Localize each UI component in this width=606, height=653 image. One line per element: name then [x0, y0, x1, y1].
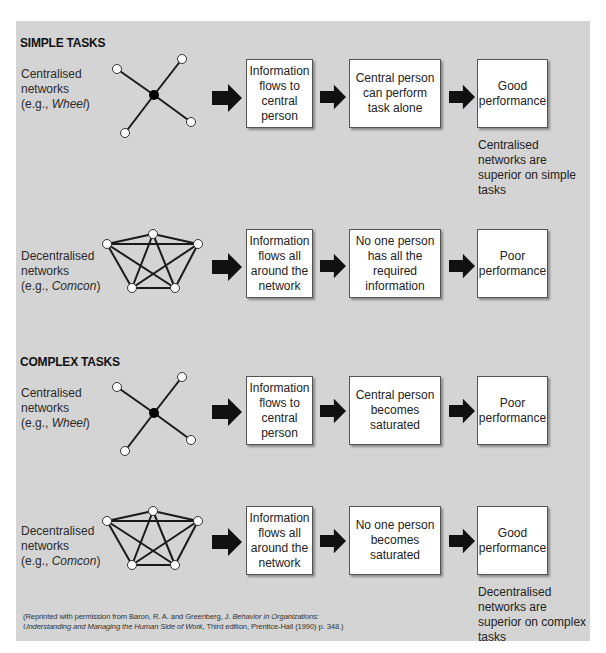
network-example: Comcon: [52, 554, 97, 568]
outcome-box: Good performance: [477, 59, 548, 128]
arrow-right-icon: [449, 253, 475, 279]
citation: (Reprinted with permission from Baron, R…: [23, 612, 343, 632]
node: [149, 230, 158, 239]
arrow-right-icon: [212, 528, 242, 556]
outer-node: [121, 129, 130, 138]
network-label: Decentralised networks (e.g., Comcon): [21, 249, 100, 294]
outer-node: [178, 373, 187, 382]
outcome-box: Poor performance: [477, 376, 548, 445]
arrow-right-icon: [212, 84, 242, 112]
conclusion-note: Centralised networks are superior on sim…: [478, 138, 590, 198]
outer-node: [113, 383, 122, 392]
outer-node: [187, 436, 196, 445]
step-box: No one person becomes saturated: [349, 506, 441, 575]
node: [171, 284, 180, 293]
network-example: Comcon: [52, 279, 97, 293]
network-label: Centralised networks (e.g., Wheel): [21, 386, 90, 431]
conclusion-note: Decentralised networks are superior on c…: [478, 585, 590, 645]
section-title-simple-tasks: SIMPLE TASKS: [20, 36, 105, 50]
arrow-right-icon: [320, 84, 346, 110]
arrow-right-icon: [212, 398, 242, 426]
node: [128, 284, 137, 293]
section-title-complex-tasks: COMPLEX TASKS: [20, 355, 120, 369]
step-box: Information flows to central person: [246, 376, 313, 445]
arrow-right-icon: [449, 528, 475, 554]
node: [171, 561, 180, 570]
step-box: No one person has all the required infor…: [349, 229, 441, 298]
arrow-right-icon: [320, 253, 346, 279]
comcon-network-diagram: [100, 225, 210, 305]
step-box: Information flows all around the network: [246, 229, 313, 298]
node: [149, 507, 158, 516]
node: [128, 561, 137, 570]
wheel-network-diagram: [105, 50, 215, 145]
outer-node: [178, 55, 187, 64]
arrow-right-icon: [449, 84, 475, 110]
step-box: Information flows all around the network: [246, 506, 313, 575]
outer-node: [121, 447, 130, 456]
outer-node: [187, 118, 196, 127]
network-example: Wheel: [52, 416, 86, 430]
arrow-right-icon: [320, 528, 346, 554]
outcome-box: Good performance: [477, 506, 548, 575]
step-box: Information flows to central person: [246, 59, 313, 128]
central-node: [149, 408, 159, 418]
comcon-network-diagram: [100, 502, 210, 582]
network-label: Centralised networks (e.g., Wheel): [21, 67, 90, 112]
node: [103, 517, 112, 526]
node: [194, 517, 203, 526]
central-node: [149, 90, 159, 100]
arrow-right-icon: [449, 398, 475, 424]
outcome-box: Poor performance: [477, 229, 548, 298]
arrow-right-icon: [320, 398, 346, 424]
network-example: Wheel: [52, 97, 86, 111]
node: [103, 240, 112, 249]
arrow-right-icon: [212, 253, 242, 281]
wheel-network-diagram: [105, 368, 215, 463]
network-label: Decentralised networks (e.g., Comcon): [21, 524, 100, 569]
step-box: Central person can perform task alone: [349, 59, 441, 128]
step-box: Central person becomes saturated: [349, 376, 441, 445]
outer-node: [113, 65, 122, 74]
node: [194, 240, 203, 249]
